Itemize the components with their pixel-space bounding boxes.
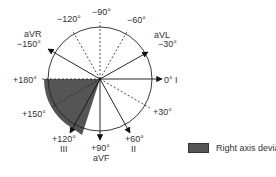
legend-swatch bbox=[188, 143, 209, 153]
label-plus-90: +90° bbox=[91, 143, 110, 153]
right-axis-deviation-sector bbox=[44, 79, 100, 135]
label-plus-150: +150° bbox=[22, 109, 46, 119]
label-plus-180: +180° bbox=[13, 75, 37, 85]
label-minus-120: −120° bbox=[57, 14, 81, 24]
legend: Right axis deviation bbox=[188, 143, 276, 153]
label-plus-30: +30° bbox=[153, 107, 172, 117]
label-plus-120: +120° bbox=[52, 134, 76, 144]
label-minus-60: −60° bbox=[127, 15, 146, 25]
label-lead-ii: II bbox=[131, 144, 136, 154]
label-avf: aVF bbox=[93, 153, 110, 163]
label-minus-150: −150° bbox=[17, 39, 41, 49]
label-minus-30: −30° bbox=[158, 39, 177, 49]
label-lead-iii: III bbox=[60, 144, 68, 154]
label-minus-90: −90° bbox=[92, 7, 111, 17]
legend-label: Right axis deviation bbox=[216, 143, 276, 153]
label-zero-lead-i: 0° I bbox=[164, 75, 178, 85]
label-plus-60: +60° bbox=[125, 134, 144, 144]
label-avr: aVR bbox=[24, 29, 42, 39]
